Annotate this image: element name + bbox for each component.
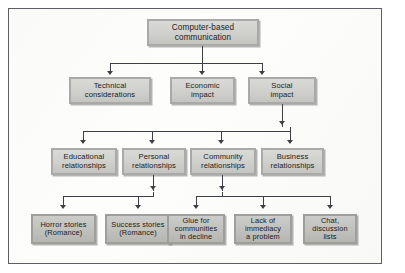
diagram-canvas: Computer-based communication Technical c…	[0, 0, 405, 273]
arrowhead-community	[218, 140, 224, 144]
node-technical[interactable]: Technical considerations	[69, 77, 151, 104]
node-social[interactable]: Social impact	[248, 77, 316, 104]
node-glue[interactable]: Glue for communities in decline	[167, 214, 225, 244]
arrowhead-community-stem	[219, 186, 225, 190]
edge-bus-level3	[83, 131, 290, 132]
arrowhead-success	[135, 205, 141, 209]
edge-root-stem	[202, 46, 203, 63]
arrowhead-business	[287, 140, 293, 144]
node-technical-label: Technical considerations	[83, 82, 137, 99]
node-economic-label: Economic impact	[183, 82, 221, 99]
node-horror[interactable]: Horror stories (Romance)	[31, 214, 96, 244]
edge-bus-left-riser	[153, 192, 154, 197]
arrowhead-technical	[107, 71, 113, 75]
node-personal[interactable]: Personal relationships	[122, 148, 186, 175]
edge-bus-level2	[110, 63, 263, 64]
arrowhead-educational	[80, 140, 86, 144]
node-personal-label: Personal relationships	[130, 153, 178, 170]
node-educational[interactable]: Educational relationships	[51, 148, 117, 175]
node-immediacy[interactable]: Lack of immediacy a problem	[234, 214, 292, 244]
arrowhead-immediacy	[260, 205, 266, 209]
node-chat[interactable]: Chat, discussion lists	[303, 214, 357, 244]
node-business-label: Business relationships	[269, 153, 317, 170]
node-success[interactable]: Success stories (Romance)	[105, 214, 171, 244]
node-immediacy-label: Lack of immediacy a problem	[243, 217, 283, 242]
diagram-page: Computer-based communication Technical c…	[0, 0, 405, 273]
node-root-label: Computer-based communication	[170, 23, 236, 41]
node-social-label: Social impact	[269, 82, 296, 99]
arrowhead-glue	[193, 205, 199, 209]
arrowhead-chat	[327, 205, 333, 209]
node-chat-label: Chat, discussion lists	[310, 217, 350, 242]
node-success-label: Success stories (Romance)	[109, 221, 166, 238]
arrowhead-personal-stem	[150, 186, 156, 190]
node-root[interactable]: Computer-based communication	[147, 19, 259, 46]
node-economic[interactable]: Economic impact	[170, 77, 235, 104]
arrowhead-personal	[149, 140, 155, 144]
arrowhead-social	[259, 71, 265, 75]
node-business[interactable]: Business relationships	[261, 148, 324, 175]
node-glue-label: Glue for communities in decline	[173, 217, 220, 242]
arrowhead-social-stem	[279, 121, 285, 125]
edge-bus-right-riser	[222, 192, 223, 197]
node-community[interactable]: Community relationships	[190, 148, 256, 175]
edge-bus-level4-left	[63, 196, 154, 197]
node-educational-label: Educational relationships	[60, 153, 108, 170]
arrowhead-horror	[60, 205, 66, 209]
node-horror-label: Horror stories (Romance)	[38, 221, 88, 238]
node-community-label: Community relationships	[199, 153, 247, 170]
arrowhead-economic	[199, 71, 205, 75]
